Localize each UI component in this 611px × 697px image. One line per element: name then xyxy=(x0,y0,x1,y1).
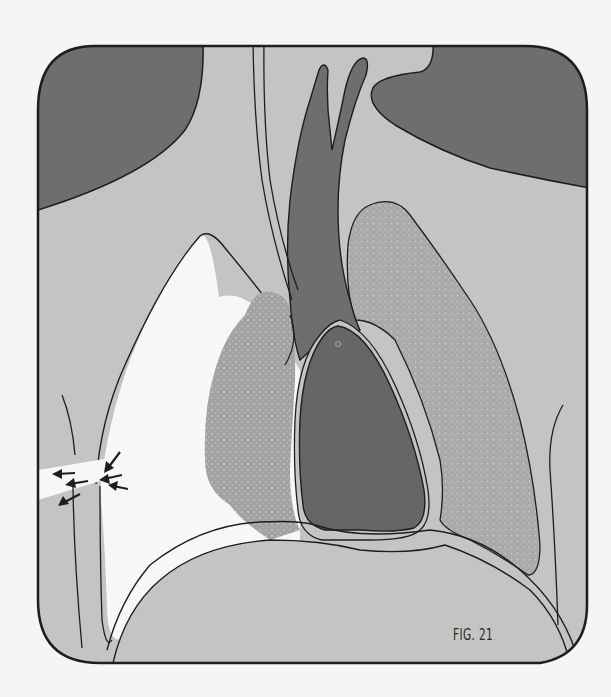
book-page: FIG. 21 xyxy=(0,0,611,697)
pneumothorax-illustration xyxy=(0,0,611,697)
figure-label: FIG. 21 xyxy=(453,626,493,644)
